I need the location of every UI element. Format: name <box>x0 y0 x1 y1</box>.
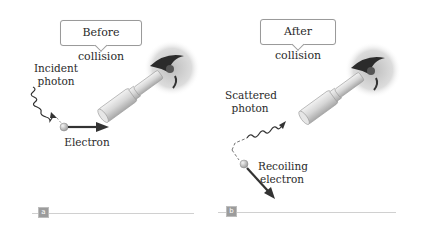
scattered-photon-label: Scattered photon <box>225 89 275 115</box>
eye-icon <box>345 42 401 98</box>
incident-photon-label-line2: photon <box>28 75 84 88</box>
before-collision-bubble: Before collision <box>60 20 142 46</box>
recoiling-electron-label-line1: Recoiling <box>258 160 306 173</box>
telescope-icon <box>297 70 366 126</box>
panel-b-after-collision: After collision Scattered photon Recoili… <box>213 0 426 239</box>
incident-path-dashed <box>232 138 247 150</box>
photon-arrowhead-icon <box>50 112 57 118</box>
panel-a-before-collision: Before collision Incident photon Electro… <box>0 0 213 239</box>
panel-a-baseline <box>32 213 194 214</box>
panel-a-tag: a <box>38 207 49 218</box>
after-collision-bubble: After collision <box>260 19 336 45</box>
incident-photon-label-line1: Incident <box>28 62 84 75</box>
scattered-photon-wave <box>247 127 281 138</box>
electron-icon <box>240 160 248 168</box>
incident-photon-label: Incident photon <box>28 62 84 88</box>
electron-label: Electron <box>64 136 110 149</box>
panel-b-baseline <box>218 212 396 213</box>
scattered-photon-label-line1: Scattered <box>225 89 275 102</box>
recoiling-electron-label: Recoiling electron <box>258 160 306 186</box>
scattered-photon-label-line2: photon <box>225 102 275 115</box>
electron-icon <box>60 123 68 131</box>
telescope-icon <box>96 68 165 124</box>
panel-b-tag: b <box>226 206 237 217</box>
recoiling-electron-label-line2: electron <box>258 173 306 186</box>
eye-icon <box>144 40 200 96</box>
